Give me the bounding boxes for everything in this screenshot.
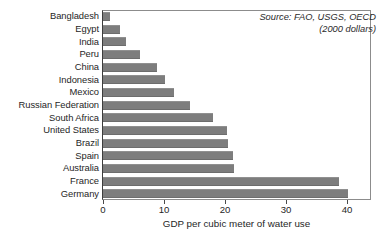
bar bbox=[103, 101, 190, 110]
bar bbox=[103, 63, 157, 72]
bar bbox=[103, 113, 213, 122]
bar bbox=[103, 12, 110, 21]
category-label: India bbox=[0, 37, 99, 46]
bar bbox=[103, 25, 120, 34]
x-axis-tick-label: 40 bbox=[342, 204, 353, 215]
bar-series bbox=[103, 10, 371, 200]
x-axis-title: GDP per cubic meter of water use bbox=[102, 218, 371, 229]
category-label: Peru bbox=[0, 49, 99, 58]
category-axis-labels: BangladeshEgyptIndiaPeruChinaIndonesiaMe… bbox=[0, 10, 99, 200]
x-axis-tick-label: 30 bbox=[281, 204, 292, 215]
x-axis-tick-label: 10 bbox=[159, 204, 170, 215]
bar bbox=[103, 139, 228, 148]
category-label: France bbox=[0, 176, 99, 185]
category-label: Egypt bbox=[0, 24, 99, 33]
category-label: Indonesia bbox=[0, 75, 99, 84]
category-label: United States bbox=[0, 125, 99, 134]
source-line-1: Source: FAO, USGS, OECD bbox=[259, 12, 376, 24]
x-axis: GDP per cubic meter of water use 0102030… bbox=[102, 200, 371, 236]
category-label: Germany bbox=[0, 189, 99, 198]
bar bbox=[103, 75, 165, 84]
category-label: China bbox=[0, 62, 99, 71]
bar bbox=[103, 88, 174, 97]
bar bbox=[103, 164, 234, 173]
category-label: Brazil bbox=[0, 138, 99, 147]
category-label: South Africa bbox=[0, 113, 99, 122]
category-label: Mexico bbox=[0, 87, 99, 96]
source-line-2: (2000 dollars) bbox=[259, 24, 376, 36]
bar bbox=[103, 189, 348, 198]
chart-container: BangladeshEgyptIndiaPeruChinaIndonesiaMe… bbox=[0, 0, 382, 236]
category-label: Australia bbox=[0, 163, 99, 172]
bar bbox=[103, 151, 233, 160]
bar bbox=[103, 177, 339, 186]
category-label: Spain bbox=[0, 151, 99, 160]
bar bbox=[103, 50, 140, 59]
bar bbox=[103, 126, 227, 135]
category-label: Bangladesh bbox=[0, 11, 99, 20]
x-axis-tick-label: 0 bbox=[100, 204, 105, 215]
category-label: Russian Federation bbox=[0, 100, 99, 109]
bar bbox=[103, 37, 126, 46]
x-axis-tick-label: 20 bbox=[220, 204, 231, 215]
source-annotation: Source: FAO, USGS, OECD (2000 dollars) bbox=[259, 12, 376, 35]
